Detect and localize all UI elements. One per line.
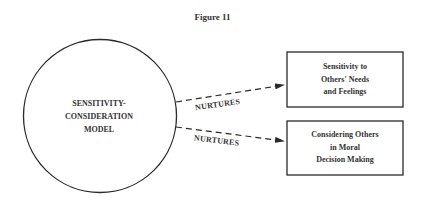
model-label-line: MODEL [48, 123, 150, 136]
model-label: SENSITIVITY- CONSIDERATION MODEL [48, 97, 150, 136]
box-label-line: Considering Others [287, 129, 403, 142]
box-considering-label: Considering Others in Moral Decision Mak… [287, 129, 403, 167]
model-label-line: SENSITIVITY- [48, 97, 150, 110]
box-label-line: Decision Making [287, 154, 403, 167]
model-label-line: CONSIDERATION [48, 110, 150, 123]
box-label-line: and Feelings [287, 86, 403, 99]
box-label-line: Sensitivity to [287, 61, 403, 74]
figure-title: Figure 11 [0, 12, 425, 22]
box-sensitivity-label: Sensitivity to Others' Needs and Feeling… [287, 61, 403, 99]
box-label-line: Others' Needs [287, 74, 403, 87]
box-label-line: in Moral [287, 142, 403, 155]
